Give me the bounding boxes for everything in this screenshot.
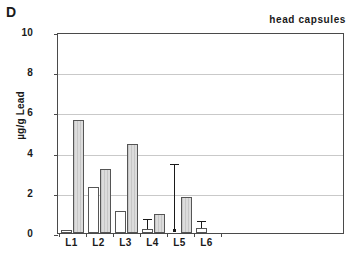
x-tick-label: L6 — [187, 237, 227, 248]
bar-gray — [127, 144, 138, 233]
bar-gray — [154, 214, 165, 233]
error-bar — [147, 220, 148, 229]
error-bar — [201, 222, 202, 228]
y-tick-mark — [54, 235, 58, 236]
bar-gray — [100, 169, 111, 233]
chart-title: head capsules — [269, 14, 346, 25]
error-bar-cap — [143, 219, 152, 220]
bar-white — [142, 229, 153, 233]
y-tick-label: 2 — [3, 188, 33, 199]
panel-label: D — [6, 4, 16, 20]
y-tick-label: 8 — [3, 67, 33, 78]
y-tick-label: 4 — [3, 148, 33, 159]
bars-layer — [58, 34, 343, 233]
error-bar — [174, 165, 175, 231]
bar-white — [88, 187, 99, 233]
y-tick-label: 10 — [3, 27, 33, 38]
bar-white — [196, 228, 207, 233]
error-bar-cap — [170, 164, 179, 165]
bar-gray — [73, 120, 84, 233]
error-bar-cap — [197, 221, 206, 222]
bar-white — [61, 230, 72, 233]
bar-gray — [181, 197, 192, 233]
y-tick-label: 0 — [3, 228, 33, 239]
plot-area: 0246810 — [57, 33, 344, 234]
bar-white — [115, 211, 126, 233]
y-tick-label: 6 — [3, 107, 33, 118]
